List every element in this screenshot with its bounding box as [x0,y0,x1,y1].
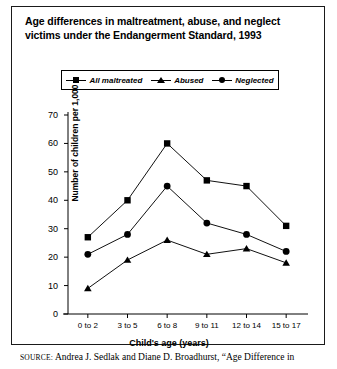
y-tick-label: 50 [32,168,58,177]
data-point-marker [282,259,290,265]
data-point-marker [243,231,250,238]
chart-title: Age differences in maltreatment, abuse, … [25,15,313,42]
legend-label-neglected: Neglected [235,76,273,85]
y-tick-label: 70 [32,111,58,120]
figure-frame: Age differences in maltreatment, abuse, … [11,6,325,345]
y-tick-label: 20 [32,253,58,262]
x-tick-label: 15 to 17 [263,321,309,330]
chart-legend: All maltreated Abused Neglected [61,70,279,90]
source-note: SOURCE: Andrea J. Sedlak and Diane D. Br… [20,352,325,363]
y-tick-label: 0 [32,310,58,319]
data-point-marker [124,197,130,203]
data-point-marker [163,236,171,242]
legend-item-neglected[interactable]: Neglected [212,76,273,85]
data-point-marker [85,234,91,240]
data-point-marker [283,223,289,229]
data-point-marker [84,285,92,291]
data-point-marker [124,231,131,238]
data-point-marker [124,256,132,262]
y-tick-label: 30 [32,225,58,234]
plot-area: Number of children per 1,000 01020304050… [24,102,314,327]
source-keyword: SOURCE: [20,353,53,362]
legend-label-abused: Abused [174,76,203,85]
x-axis-title: Child's age (years) [24,338,314,348]
data-point-marker [243,245,251,251]
legend-key-triangle-icon [151,76,171,85]
data-point-marker [164,140,170,146]
data-point-marker [164,183,171,190]
legend-label-all-maltreated: All maltreated [89,76,142,85]
source-text: Andrea J. Sedlak and Diane D. Broadhurst… [53,352,294,362]
data-point-marker [243,183,249,189]
y-tick-label: 10 [32,282,58,291]
y-tick-label: 60 [32,139,58,148]
data-point-marker [204,177,210,183]
chart-canvas [24,102,314,327]
y-tick-label: 40 [32,196,58,205]
legend-item-abused[interactable]: Abused [151,76,203,85]
data-point-marker [84,251,91,258]
legend-key-circle-icon [212,76,232,85]
data-point-marker [203,220,210,227]
data-point-marker [283,248,290,255]
